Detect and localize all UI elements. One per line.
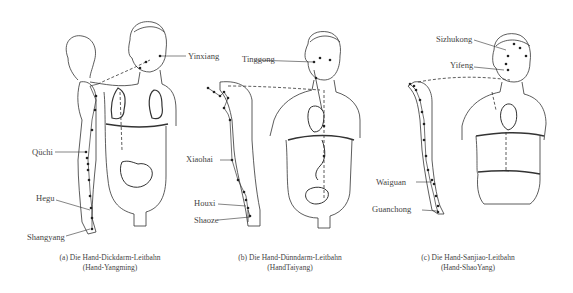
figure-large-intestine-meridian: Yinxiang Qüchi Hegu Shangyang (a) Die Ha… <box>0 0 190 293</box>
figure-small-intestine-meridian: Tinggong Xiaohai Houxi Shaoze (b) Die Ha… <box>190 0 380 293</box>
caption-c: (c) Die Hand-Sanjiao-Leitbahn (Hand-Shao… <box>398 253 538 273</box>
caption-a-title: (a) Die Hand-Dickdarm-Leitbahn <box>40 253 180 263</box>
small-intestine-meridian-drawing <box>190 0 380 293</box>
point-label-guanchong: Guanchong <box>372 204 411 214</box>
point-label-sizhukong: Sizhukong <box>436 34 472 44</box>
caption-b-subtitle: (HandTaiyang) <box>220 263 360 273</box>
caption-b-title: (b) Die Hand-Dünndarm-Leitbahn <box>220 253 360 263</box>
point-label-shangyang: Shangyang <box>27 232 65 242</box>
point-label-shaoze: Shaoze <box>194 215 219 225</box>
caption-c-title: (c) Die Hand-Sanjiao-Leitbahn <box>398 253 538 263</box>
point-label-waiguan: Waiguan <box>376 177 406 187</box>
point-label-tinggong: Tinggong <box>242 54 275 64</box>
point-label-houxi: Houxi <box>194 198 215 208</box>
point-label-xiaohai: Xiaohai <box>186 154 213 164</box>
large-intestine-meridian-drawing <box>0 0 190 293</box>
caption-a: (a) Die Hand-Dickdarm-Leitbahn (Hand-Yan… <box>40 253 180 273</box>
figure-sanjiao-meridian: Sizhukong Yifeng Waiguan Guanchong (c) D… <box>380 0 573 293</box>
caption-c-subtitle: (Hand-ShaoYang) <box>398 263 538 273</box>
point-label-yifeng: Yifeng <box>450 60 473 70</box>
caption-b: (b) Die Hand-Dünndarm-Leitbahn (HandTaiy… <box>220 253 360 273</box>
point-label-quchi: Qüchi <box>32 147 53 157</box>
point-label-hegu: Hegu <box>36 193 54 203</box>
caption-a-subtitle: (Hand-Yangming) <box>40 263 180 273</box>
sanjiao-meridian-drawing <box>380 0 573 293</box>
